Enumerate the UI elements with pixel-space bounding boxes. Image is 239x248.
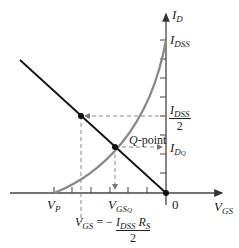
vgs-axis-label: VGS <box>214 200 233 213</box>
origin-label: 0 <box>172 198 179 211</box>
id-axis-label: ID <box>172 8 183 21</box>
q-point-label: Q-point <box>129 134 166 146</box>
origin-point <box>163 190 169 196</box>
vgsq-label: VGSQ <box>108 198 132 211</box>
half-idss-point <box>78 113 84 119</box>
vgs-equation: VGS = − IDSS RS 2 <box>75 215 150 246</box>
vp-label: VP <box>47 198 60 211</box>
idq-label: IDQ <box>170 141 186 154</box>
bias-load-line <box>20 60 166 193</box>
idss-label: IDSS <box>170 33 190 46</box>
q-point <box>112 144 118 150</box>
half-idss-label: IDSS 2 <box>169 103 191 134</box>
